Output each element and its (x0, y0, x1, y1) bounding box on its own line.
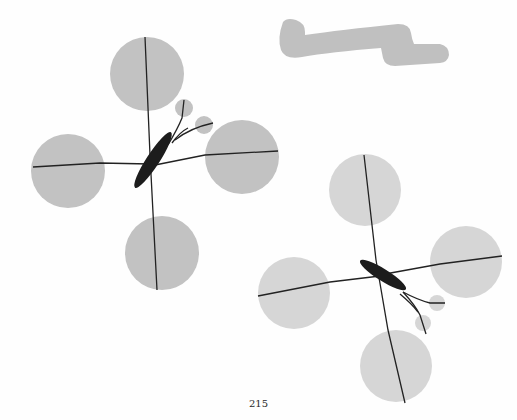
book-page: 215 (0, 0, 517, 420)
strider-1-body (130, 129, 177, 191)
page-number: 215 (0, 398, 517, 409)
strider-2-body (357, 256, 409, 295)
squiggle-shape (279, 19, 449, 66)
water-strider-illustration (0, 0, 517, 420)
